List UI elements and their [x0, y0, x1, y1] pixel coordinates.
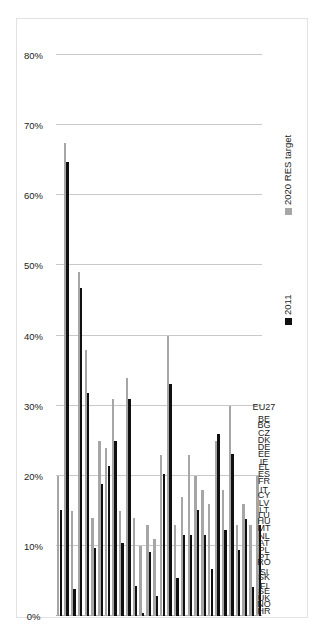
- bar-group-HR: [56, 20, 63, 616]
- bar-actual-CZ: [238, 550, 240, 616]
- bar-group-IT: [180, 20, 187, 616]
- category-label-HR: HR: [257, 606, 270, 617]
- legend-label-target: 2020 RES target: [282, 135, 293, 205]
- bar-actual-SK: [94, 548, 96, 616]
- bar-group-LU: [152, 20, 159, 616]
- bar-actual-FI: [87, 393, 89, 616]
- value-axis-labels: 0%10%20%30%40%50%60%70%80%: [18, 20, 54, 616]
- bar-actual-ES: [197, 510, 199, 616]
- bar-group-SK: [90, 20, 97, 616]
- value-tick-60: 60%: [20, 190, 48, 201]
- bar-group-MT: [138, 20, 145, 616]
- chart-legend: 2020 RES target 2011: [252, 215, 298, 415]
- value-tick-0: 0%: [20, 611, 48, 622]
- bar-actual-BG: [245, 519, 247, 616]
- bar-group-IE: [207, 20, 214, 616]
- bar-group-CY: [173, 20, 180, 616]
- bar-actual-DK: [231, 454, 233, 616]
- bar-target-MT: [139, 546, 141, 616]
- bar-group-UK: [70, 20, 77, 616]
- bar-group-RO: [104, 20, 111, 616]
- bar-actual-DE: [224, 530, 226, 616]
- bar-actual-FR: [190, 535, 192, 616]
- bar-actual-SE: [80, 288, 82, 616]
- bar-group-DE: [221, 20, 228, 616]
- bar-actual-NL: [135, 586, 137, 616]
- bar-actual-UK: [73, 589, 75, 616]
- bar-group-SE: [77, 20, 84, 616]
- value-tick-10: 10%: [20, 540, 48, 551]
- bar-group-AT: [125, 20, 132, 616]
- bar-group-BG: [241, 20, 248, 616]
- bar-group-NL: [132, 20, 139, 616]
- bar-group-FR: [186, 20, 193, 616]
- bar-actual-EL: [204, 535, 206, 616]
- bar-group-FI: [83, 20, 90, 616]
- bar-actual-BE: [252, 587, 254, 616]
- value-tick-80: 80%: [20, 50, 48, 61]
- bar-actual-AT: [128, 399, 130, 616]
- bar-actual-EE: [217, 434, 219, 616]
- bar-actual-LU: [156, 596, 158, 616]
- bar-actual-IE: [211, 569, 213, 616]
- bar-group-ES: [193, 20, 200, 616]
- bar-actual-CY: [176, 578, 178, 616]
- legend-entry-actual: 2011: [282, 295, 293, 325]
- chart-page: 0%10%20%30%40%50%60%70%80% EU27BEBGCZDKD…: [0, 0, 324, 634]
- bar-actual-SI: [101, 484, 103, 616]
- bar-group-NO: [63, 20, 70, 616]
- bar-group-CZ: [235, 20, 242, 616]
- bar-actual-HU: [149, 552, 151, 616]
- value-tick-50: 50%: [20, 260, 48, 271]
- bar-actual-PT: [114, 441, 116, 616]
- bar-group-SI: [97, 20, 104, 616]
- bar-actual-IT: [183, 535, 185, 616]
- value-tick-70: 70%: [20, 120, 48, 131]
- bar-actual-LT: [163, 474, 165, 616]
- legend-entry-target: 2020 RES target: [282, 135, 293, 215]
- bar-actual-PL: [121, 543, 123, 616]
- bar-series-container: [56, 20, 262, 616]
- value-tick-40: 40%: [20, 330, 48, 341]
- bar-group-LT: [159, 20, 166, 616]
- bar-group-EL: [200, 20, 207, 616]
- bar-actual-RO: [108, 466, 110, 616]
- bar-actual-LV: [169, 384, 171, 616]
- bar-group-LV: [166, 20, 173, 616]
- value-tick-30: 30%: [20, 400, 48, 411]
- bar-group-DK: [228, 20, 235, 616]
- bar-actual-HR: [60, 510, 62, 616]
- legend-label-actual: 2011: [282, 295, 293, 315]
- bar-group-EE: [214, 20, 221, 616]
- plot-area: [56, 20, 262, 616]
- value-tick-20: 20%: [20, 470, 48, 481]
- grey-square-icon: [285, 208, 292, 215]
- bar-group-HU: [145, 20, 152, 616]
- bar-actual-MT: [142, 613, 144, 616]
- bar-group-PT: [111, 20, 118, 616]
- bar-actual-NO: [66, 162, 68, 616]
- black-square-icon: [285, 318, 292, 325]
- bar-group-PL: [118, 20, 125, 616]
